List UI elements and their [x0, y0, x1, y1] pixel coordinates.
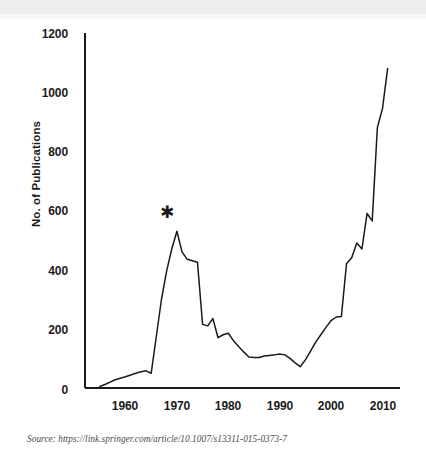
screenshot-root: No. of Publications 1200 1000 800 600 40… [0, 0, 426, 470]
publications-line-chart-figure: No. of Publications 1200 1000 800 600 40… [0, 0, 426, 470]
publications-data-line [100, 69, 388, 387]
chart-plot-area [0, 0, 426, 470]
source-citation: Source: https://link.springer.com/articl… [27, 434, 287, 444]
